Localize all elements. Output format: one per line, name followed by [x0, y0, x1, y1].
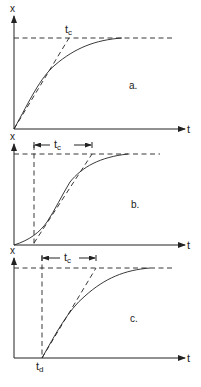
tc-label: tc: [65, 23, 72, 37]
response-curve: [14, 38, 122, 129]
panel-label: b.: [131, 199, 139, 210]
y-axis-label: x: [10, 3, 15, 14]
y-axis-label: x: [10, 131, 15, 142]
tc-label: tc: [64, 251, 71, 265]
panel-label: a.: [129, 80, 137, 91]
y-axis-label: x: [10, 245, 15, 256]
td-label: td: [36, 360, 44, 374]
panel-a: x t tc a.: [10, 3, 190, 135]
x-axis-label: t: [187, 352, 190, 364]
response-diagram: x t tc a. x t tc b. x t t: [0, 0, 201, 387]
x-axis-label: t: [187, 239, 190, 251]
tangent-line: [34, 154, 92, 243]
panel-label: c.: [130, 313, 138, 324]
tc-label: tc: [54, 138, 61, 152]
x-axis-label: t: [187, 123, 190, 135]
response-curve: [14, 154, 128, 245]
panel-b: x t tc b.: [10, 131, 190, 251]
tangent-line: [14, 38, 69, 129]
panel-c: x t tc td c.: [10, 245, 190, 374]
